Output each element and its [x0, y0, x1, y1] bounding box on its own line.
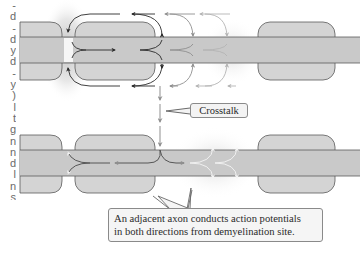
- callout-line-2: in both directions from demyelination si…: [114, 226, 295, 237]
- crosstalk-label: Crosstalk: [190, 103, 248, 118]
- callout-line-1: An adjacent axon conducts action potenti…: [114, 213, 301, 224]
- callout-pointer: [158, 188, 191, 209]
- demyelinated-gap: [64, 38, 73, 62]
- cropped-side-text: - d - d y d - y ) l t g n n d l n s: [0, 0, 16, 200]
- bottom-axon: [20, 127, 360, 199]
- callout-box: An adjacent axon conducts action potenti…: [108, 208, 323, 242]
- top-axon: [20, 0, 360, 102]
